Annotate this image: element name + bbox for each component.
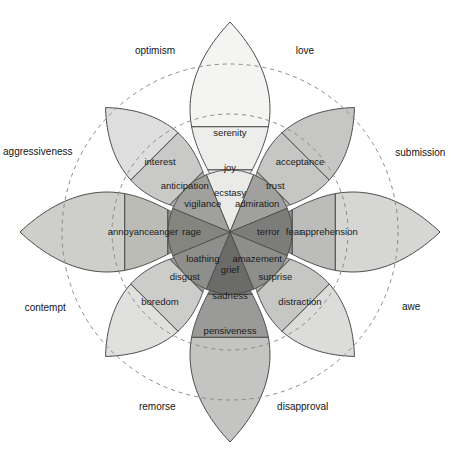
petal-sadness-axis[interactable] [190,291,270,442]
label-admiration: admiration [235,198,279,209]
label-terror: terror [257,226,280,237]
dyad-label-optimism: optimism [135,45,175,56]
label-rage: rage [182,226,201,237]
label-trust: trust [266,180,285,191]
label-distraction: distraction [278,296,321,307]
label-grief: grief [221,264,240,275]
label-anticipation: anticipation [161,180,209,191]
label-disgust: disgust [170,271,200,282]
label-ecstasy: ecstasy [214,187,246,198]
label-anger: anger [154,226,178,237]
label-loathing: loathing [186,253,219,264]
dyad-label-love: love [296,45,315,56]
figure-canvas: ecstasyjoyserenityadmirationtrustaccepta… [0,0,461,465]
petal-tip-sadness-axis[interactable] [190,337,270,442]
plutchik-wheel-diagram: ecstasyjoyserenityadmirationtrustaccepta… [0,0,461,465]
dyad-label-contempt: contempt [25,302,66,313]
dyad-label-submission: submission [395,147,445,158]
label-acceptance: acceptance [276,156,325,167]
petal-joy-axis[interactable] [190,22,270,173]
label-joy: joy [223,162,236,173]
label-interest: interest [144,156,176,167]
label-vigilance: vigilance [184,198,221,209]
label-serenity: serenity [213,127,247,138]
dyad-label-awe: awe [402,301,421,312]
petal-layer [20,22,440,442]
label-annoyance: annoyance [108,226,154,237]
label-pensiveness: pensiveness [204,325,257,336]
dyad-label-remorse: remorse [139,401,176,412]
label-boredom: boredom [141,296,179,307]
label-amazement: amazement [232,253,282,264]
dyad-label-disapproval: disapproval [277,401,328,412]
label-apprehension: apprehension [300,226,358,237]
label-surprise: surprise [258,271,292,282]
petal-tip-joy-axis[interactable] [190,22,270,127]
dyad-label-aggressiveness: aggressiveness [3,146,72,157]
label-sadness: sadness [212,290,248,301]
